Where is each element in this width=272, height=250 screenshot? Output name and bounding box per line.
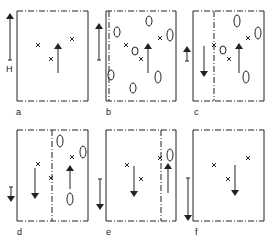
panel-label-e: e bbox=[106, 227, 111, 237]
reverse-domain-icon bbox=[220, 46, 226, 54]
pinning-site-icon bbox=[124, 43, 128, 47]
pinning-site-icon bbox=[246, 156, 250, 160]
reverse-domain-icon bbox=[243, 71, 249, 83]
reverse-domain-icon bbox=[114, 27, 120, 37]
panel-e bbox=[98, 130, 176, 221]
panel-label-b: b bbox=[106, 107, 111, 117]
field-label: H bbox=[6, 64, 13, 74]
panel-c bbox=[185, 11, 264, 101]
panel-label-a: a bbox=[16, 107, 21, 117]
panel-label-f: f bbox=[195, 227, 198, 237]
pinning-site-icon bbox=[36, 162, 40, 166]
reverse-domain-icon bbox=[167, 149, 173, 161]
reverse-domain-icon bbox=[132, 47, 138, 55]
pinning-site-icon bbox=[125, 163, 129, 167]
panel-a bbox=[8, 11, 88, 101]
reverse-domain-icon bbox=[80, 146, 86, 158]
pinning-site-icon bbox=[158, 36, 162, 40]
reverse-domain-icon bbox=[255, 27, 261, 39]
reverse-domain-icon bbox=[130, 83, 136, 93]
pinning-site-icon bbox=[139, 177, 143, 181]
magnetic-domain-diagram: H a b c d e f bbox=[0, 0, 272, 250]
pinning-site-icon bbox=[49, 57, 53, 61]
reverse-domain-icon bbox=[57, 135, 63, 147]
panel-label-c: c bbox=[194, 107, 199, 117]
reverse-domain-icon bbox=[155, 71, 161, 83]
reverse-domain-icon bbox=[146, 16, 152, 26]
panel-d bbox=[9, 130, 88, 221]
pinning-site-icon bbox=[70, 37, 74, 41]
reverse-domain-icon bbox=[234, 15, 240, 27]
pinning-site-icon bbox=[212, 163, 216, 167]
panel-f bbox=[186, 130, 264, 221]
pinning-site-icon bbox=[139, 57, 143, 61]
reverse-domain-icon bbox=[67, 193, 73, 205]
panel-b bbox=[97, 11, 176, 101]
reverse-domain-icon bbox=[167, 29, 173, 41]
pinning-site-icon bbox=[36, 43, 40, 47]
panel-label-d: d bbox=[17, 227, 22, 237]
pinning-site-icon bbox=[227, 57, 231, 61]
pinning-site-icon bbox=[246, 36, 250, 40]
pinning-site-icon bbox=[226, 177, 230, 181]
pinning-site-icon bbox=[70, 155, 74, 159]
